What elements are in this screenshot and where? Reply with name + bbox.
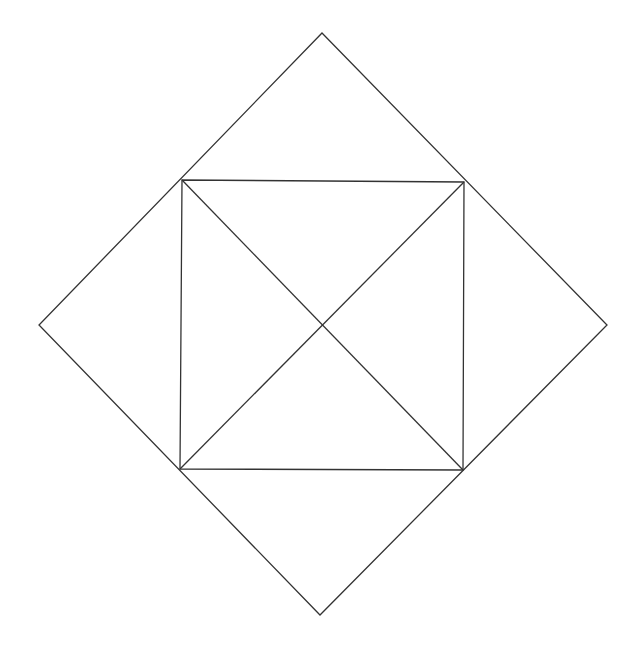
diagonal-line [180,182,464,469]
diagram-svg [0,0,643,659]
geometric-diagram [0,0,643,659]
